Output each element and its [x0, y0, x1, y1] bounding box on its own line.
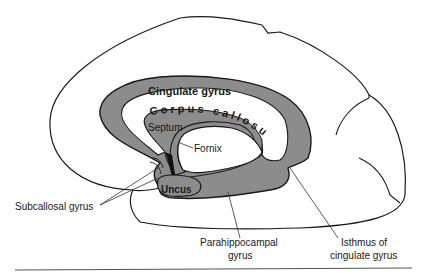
label-parahippocampal-line2: gyrus: [228, 250, 252, 261]
label-subcallosal-gyrus: Subcallosal gyrus: [15, 201, 93, 212]
label-parahippocampal-line1: Parahippocampal: [200, 237, 278, 248]
label-uncus: Uncus: [161, 184, 192, 195]
bottom-rule: [15, 268, 412, 270]
label-isthmus-line2: cingulate gyrus: [330, 250, 397, 261]
label-cingulate-gyrus: Cingulate gyrus: [148, 85, 231, 97]
label-septum: Septum: [148, 122, 182, 133]
label-isthmus-line1: Isthmus of: [341, 237, 387, 248]
limbic-lobe-diagram: Cingulate gyrus Corpus callosum Septum F…: [0, 0, 433, 277]
label-fornix: Fornix: [194, 143, 222, 154]
